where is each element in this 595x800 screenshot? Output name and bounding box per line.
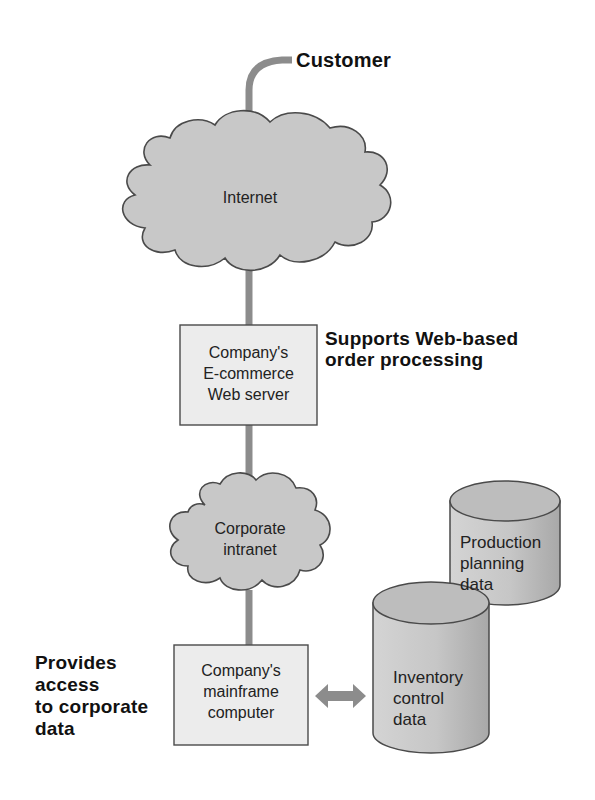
web-server-label-line-3: Web server bbox=[180, 384, 317, 405]
web-server-annotation: Supports Web-based order processing bbox=[325, 328, 518, 370]
production-planning-label-line-3: data bbox=[460, 574, 541, 595]
production-planning-label: Production planning data bbox=[460, 532, 541, 595]
inventory-control-label-line-3: data bbox=[393, 709, 463, 730]
mainframe-annotation-line-2: access bbox=[35, 674, 148, 696]
intranet-label: Corporate intranet bbox=[195, 518, 305, 560]
customer-label: Customer bbox=[296, 50, 391, 71]
web-server-annotation-line-2: order processing bbox=[325, 349, 518, 370]
bidirectional-arrow bbox=[315, 684, 366, 708]
mainframe-annotation-line-4: data bbox=[35, 718, 148, 740]
intranet-label-line-1: Corporate bbox=[195, 518, 305, 539]
mainframe-label-line-3: computer bbox=[174, 702, 308, 723]
inventory-control-label-line-2: control bbox=[393, 688, 463, 709]
production-planning-label-line-2: planning bbox=[460, 553, 541, 574]
internet-label: Internet bbox=[200, 187, 300, 208]
web-server-label-line-2: E-commerce bbox=[180, 363, 317, 384]
mainframe-annotation-line-3: to corporate bbox=[35, 696, 148, 718]
production-planning-label-line-1: Production bbox=[460, 532, 541, 553]
mainframe-label-line-1: Company's bbox=[174, 660, 308, 681]
inventory-control-label: Inventory control data bbox=[393, 667, 463, 730]
mainframe-label: Company's mainframe computer bbox=[174, 660, 308, 723]
web-server-label: Company's E-commerce Web server bbox=[180, 342, 317, 405]
web-server-label-line-1: Company's bbox=[180, 342, 317, 363]
intranet-label-line-2: intranet bbox=[195, 539, 305, 560]
inventory-control-label-line-1: Inventory bbox=[393, 667, 463, 688]
web-server-annotation-line-1: Supports Web-based bbox=[325, 328, 518, 349]
mainframe-annotation-line-1: Provides bbox=[35, 652, 148, 674]
mainframe-label-line-2: mainframe bbox=[174, 681, 308, 702]
customer-connector bbox=[249, 60, 292, 120]
mainframe-annotation: Provides access to corporate data bbox=[35, 652, 148, 740]
